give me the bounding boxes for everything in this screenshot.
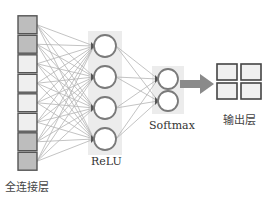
fully-connected-layer xyxy=(18,16,37,170)
neuron xyxy=(158,91,178,111)
fc-to-relu-connections xyxy=(37,25,94,162)
fc-unit xyxy=(18,74,37,92)
output-grid xyxy=(217,64,261,99)
neural-network-diagram: 全连接层 ReLU Softmax 输出层 xyxy=(0,0,271,201)
neuron xyxy=(158,69,178,89)
output-layer-label: 输出层 xyxy=(223,111,256,127)
neuron xyxy=(94,97,116,119)
fc-unit xyxy=(18,55,37,73)
arrow-icon xyxy=(180,74,214,94)
relu-label: ReLU xyxy=(91,155,122,168)
softmax-label: Softmax xyxy=(149,119,195,132)
fc-unit xyxy=(18,16,37,34)
fc-layer-label: 全连接层 xyxy=(5,178,49,194)
fc-unit xyxy=(18,133,37,151)
fc-unit xyxy=(18,35,37,53)
neuron xyxy=(94,35,116,57)
fc-unit xyxy=(18,113,37,131)
neuron xyxy=(94,128,116,150)
neuron xyxy=(94,66,116,88)
fc-unit xyxy=(18,94,37,112)
fc-unit xyxy=(18,152,37,170)
